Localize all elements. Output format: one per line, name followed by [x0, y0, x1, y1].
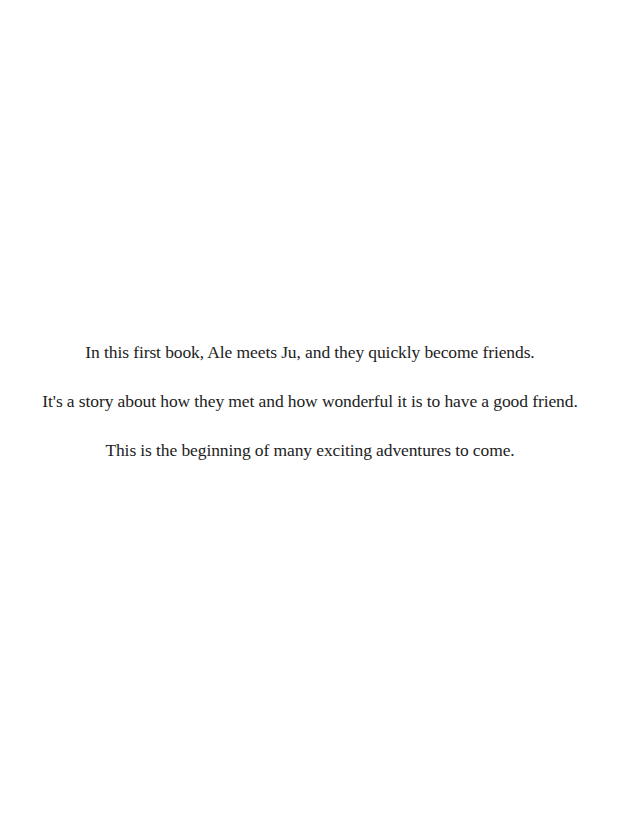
paragraph-intro: In this first book, Ale meets Ju, and th… — [0, 338, 620, 387]
intro-text-block: In this first book, Ale meets Ju, and th… — [0, 338, 620, 485]
paragraph-story-description: It's a story about how they met and how … — [0, 387, 620, 436]
paragraph-adventures: This is the beginning of many exciting a… — [0, 436, 620, 485]
book-page: In this first book, Ale meets Ju, and th… — [0, 0, 620, 832]
